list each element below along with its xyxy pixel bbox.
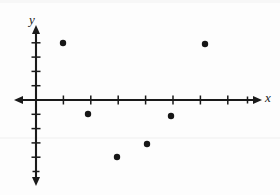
data-point[interactable]	[168, 113, 174, 119]
data-point[interactable]	[60, 40, 66, 46]
data-point[interactable]	[85, 111, 91, 117]
data-point[interactable]	[144, 141, 150, 147]
y-axis-label: y	[29, 13, 35, 26]
y-axis-group	[32, 25, 41, 186]
x-axis-group	[14, 96, 262, 105]
data-point[interactable]	[114, 154, 120, 160]
data-point[interactable]	[202, 41, 208, 47]
x-axis-label: x	[265, 91, 271, 104]
y-axis-down-arrow-icon	[32, 177, 40, 186]
x-axis-left-arrow-icon	[14, 96, 23, 104]
x-axis-right-arrow-icon	[253, 96, 262, 104]
coordinate-plane	[0, 0, 280, 195]
scatter-plot-figure: y x	[0, 0, 280, 195]
